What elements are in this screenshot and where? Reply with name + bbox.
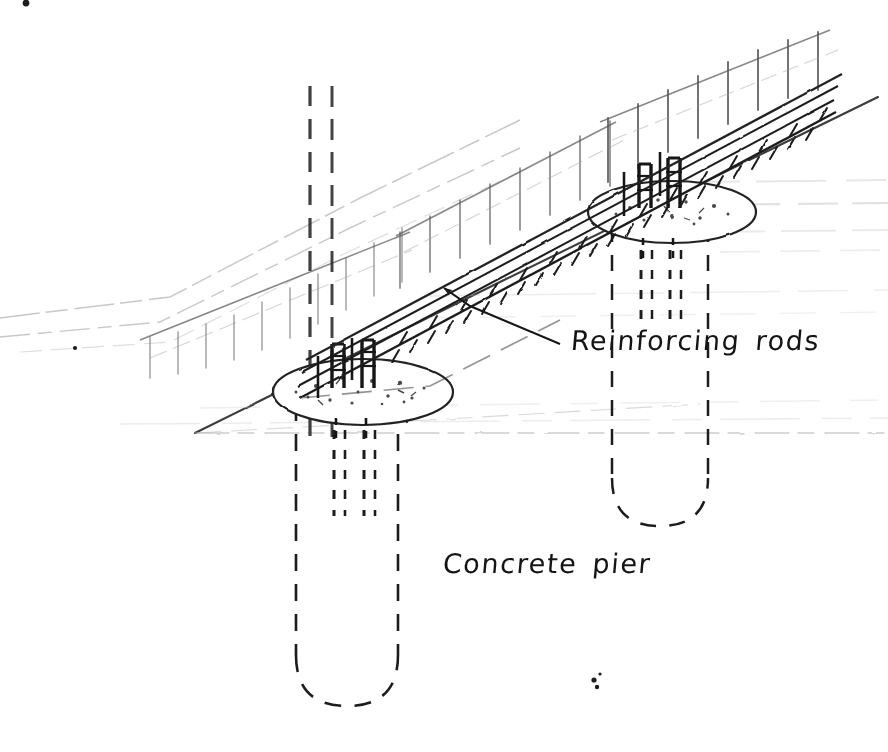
right-concrete-pier [612, 226, 708, 526]
ink-specks [23, 0, 602, 689]
left-concrete-pier [296, 404, 398, 706]
right-pier-cap [588, 158, 756, 258]
label-concrete-pier: Concrete pier [442, 548, 653, 579]
sketch-canvas [0, 0, 888, 752]
drawing-sheet: Reinforcing rods Concrete pier [0, 0, 888, 752]
label-reinforcing-rods: Reinforcing rods [570, 325, 822, 356]
left-pier-cap [273, 340, 453, 440]
